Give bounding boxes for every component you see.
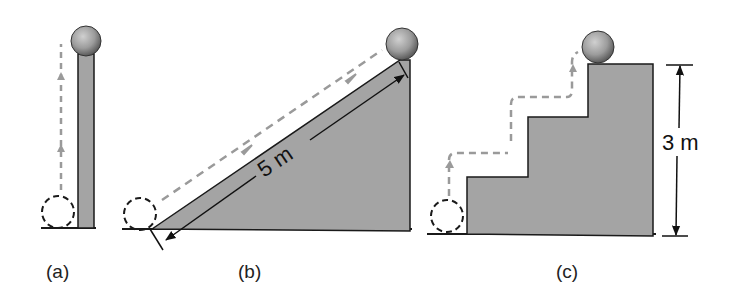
path-arrow-icon	[346, 74, 356, 83]
path-arrow-icon	[569, 64, 577, 72]
ball-top	[582, 31, 614, 63]
panel-label-a: (a)	[46, 261, 69, 282]
vertical-column	[78, 54, 94, 228]
path-arrow-icon	[445, 160, 454, 168]
height-label: 3 m	[662, 130, 699, 155]
height-dimension-upper	[679, 66, 680, 128]
panel-c: 3 m (c)	[427, 31, 699, 282]
panel-label-c: (c)	[556, 261, 578, 282]
work-energy-diagram: (a) 5 m (b) 3 m (c)	[0, 0, 736, 300]
ball-top	[71, 26, 101, 56]
ball-start-outline	[124, 198, 156, 230]
ball-top	[386, 28, 418, 60]
staircase	[467, 64, 653, 236]
panel-a: (a)	[41, 26, 101, 282]
ball-start-outline	[431, 200, 463, 232]
path-arrow-icon	[57, 72, 65, 80]
panel-label-b: (b)	[238, 261, 261, 282]
panel-b: 5 m (b)	[122, 28, 418, 282]
ball-start-outline	[42, 196, 74, 228]
path-arrow-icon	[57, 144, 65, 152]
path-arrow-icon	[242, 145, 252, 154]
height-dimension-lower	[676, 156, 677, 235]
slope-extension-bottom	[150, 229, 163, 250]
